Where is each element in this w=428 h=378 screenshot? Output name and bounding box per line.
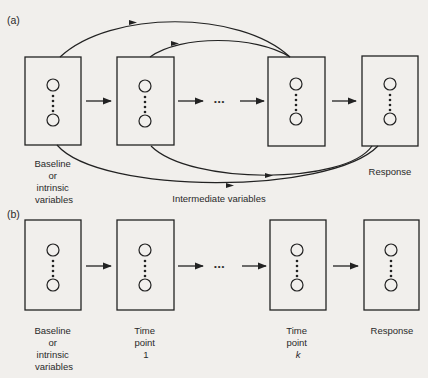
panel-a: (a) •••	[7, 14, 418, 205]
variable-node	[139, 244, 151, 256]
ellipsis: •••	[214, 262, 225, 271]
variable-node	[139, 279, 151, 291]
variable-node	[291, 244, 303, 256]
variable-node	[384, 113, 396, 125]
box-time-point-k	[270, 220, 326, 310]
panel-b-label: (b)	[7, 208, 20, 220]
variable-node	[385, 244, 397, 256]
curve-baseline-to-tk	[60, 22, 290, 57]
variable-node	[139, 115, 151, 127]
longitudinal-model-diagram: (a) •••	[0, 0, 428, 378]
curve-baseline-to-response	[57, 145, 378, 183]
variable-node	[47, 79, 59, 91]
caption-time-point-1: Time point 1	[134, 325, 157, 360]
box-time-point-1	[117, 57, 174, 145]
caption-baseline: Baseline or intrinsic variables	[34, 158, 73, 205]
box-baseline	[25, 57, 81, 145]
box-response	[362, 56, 418, 146]
box-baseline	[25, 220, 81, 310]
variable-node	[290, 113, 302, 125]
panel-a-label: (a)	[7, 14, 20, 26]
arrowhead	[265, 173, 273, 178]
variable-node	[47, 244, 59, 256]
variable-node	[47, 114, 59, 126]
arrowhead	[226, 183, 234, 188]
ellipsis: •••	[214, 97, 225, 106]
box-response	[364, 220, 419, 310]
variable-node	[47, 279, 59, 291]
box-time-point-1	[117, 220, 174, 310]
caption-baseline: Baseline or intrinsic variables	[34, 325, 73, 372]
variable-node	[291, 279, 303, 291]
curve-t1-to-response	[151, 146, 372, 175]
variable-node	[385, 279, 397, 291]
panel-b: (b) ••• Ba	[7, 208, 419, 372]
caption-time-point-k: Time point k	[286, 325, 309, 360]
caption-response: Response	[371, 325, 414, 336]
caption-response: Response	[369, 166, 412, 177]
intermediate-variables-label: Intermediate variables	[172, 193, 266, 204]
box-time-point-k	[268, 57, 325, 146]
variable-node	[290, 78, 302, 90]
variable-node	[384, 78, 396, 90]
variable-node	[139, 80, 151, 92]
